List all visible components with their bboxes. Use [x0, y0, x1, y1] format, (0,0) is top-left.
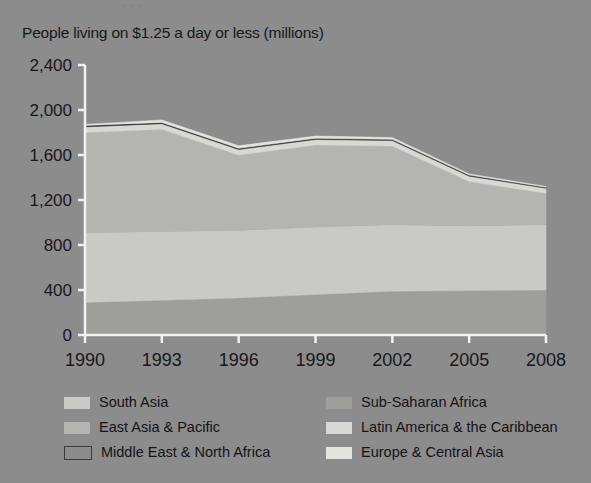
legend-item-europe-central-asia[interactable]: Europe & Central Asia — [326, 445, 584, 460]
legend-swatch-south-asia — [64, 397, 90, 409]
x-tick-label: 1990 — [65, 350, 105, 370]
x-tick-label: 1993 — [142, 350, 182, 370]
x-tick-label: 2008 — [526, 350, 566, 370]
y-tick-label: 0 — [63, 326, 72, 345]
legend-swatch-latin-america-the-caribbean — [326, 422, 352, 434]
legend-swatch-east-asia-pacific — [64, 422, 90, 434]
legend-swatch-sub-saharan-africa — [326, 397, 352, 409]
legend-swatch-middle-east-north-africa — [64, 446, 92, 460]
area-series-group — [85, 120, 546, 335]
legend-label-south-asia: South Asia — [99, 395, 168, 410]
x-tick-label: 2002 — [372, 350, 412, 370]
x-tick-label: 1996 — [219, 350, 259, 370]
legend-item-middle-east-north-africa[interactable]: Middle East & North Africa — [64, 445, 326, 460]
y-tick-label: 400 — [44, 281, 72, 300]
legend-item-east-asia-pacific[interactable]: East Asia & Pacific — [64, 420, 326, 435]
legend-label-latin-america-the-caribbean: Latin America & the Caribbean — [361, 420, 558, 435]
chart-legend: South AsiaSub-Saharan AfricaEast Asia & … — [64, 390, 584, 465]
legend-label-europe-central-asia: Europe & Central Asia — [361, 445, 504, 460]
legend-label-sub-saharan-africa: Sub-Saharan Africa — [361, 395, 487, 410]
legend-label-east-asia-pacific: East Asia & Pacific — [99, 420, 220, 435]
y-tick-label: 1,200 — [29, 191, 72, 210]
y-tick-label: 2,400 — [29, 56, 72, 75]
chart-figure: · · · People living on $1.25 a day or le… — [0, 0, 591, 483]
y-tick-label: 1,600 — [29, 146, 72, 165]
legend-item-sub-saharan-africa[interactable]: Sub-Saharan Africa — [326, 395, 584, 410]
legend-swatch-europe-central-asia — [326, 447, 352, 459]
legend-item-south-asia[interactable]: South Asia — [64, 395, 326, 410]
x-tick-label: 1999 — [295, 350, 335, 370]
x-tick-label: 2005 — [449, 350, 489, 370]
y-tick-label: 2,000 — [29, 101, 72, 120]
area-south-asia — [85, 225, 546, 303]
y-tick-label: 800 — [44, 236, 72, 255]
legend-label-middle-east-north-africa: Middle East & North Africa — [101, 445, 270, 460]
legend-item-latin-america-the-caribbean[interactable]: Latin America & the Caribbean — [326, 420, 584, 435]
